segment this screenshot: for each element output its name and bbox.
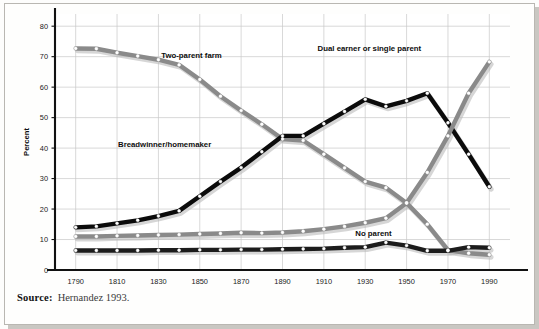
data-point-marker [447,134,450,137]
data-point-marker [405,99,408,102]
y-tick-label: 40 [40,144,48,153]
data-point-marker [322,122,325,125]
data-point-marker [178,63,181,66]
data-point-marker [281,134,284,137]
data-point-marker [240,231,243,234]
data-point-marker [198,78,201,81]
data-point-marker [178,249,181,252]
data-point-marker [136,55,139,58]
data-point-marker [364,221,367,224]
data-point-marker [343,166,346,169]
data-point-marker [322,228,325,231]
data-point-marker [281,248,284,251]
data-point-marker [219,248,222,251]
data-point-marker [343,246,346,249]
data-point-marker [178,209,181,212]
data-point-marker [343,110,346,113]
data-point-marker [426,171,429,174]
data-point-marker [74,235,77,238]
data-point-marker [302,248,305,251]
data-point-marker [447,249,450,252]
series-label-2: Breadwinner/homemaker [118,140,211,149]
data-point-marker [405,202,408,205]
data-point-marker [198,248,201,251]
data-point-marker [95,249,98,252]
data-point-marker [467,92,470,95]
x-tick-label: 1790 [67,277,83,286]
source-note: Source:Hernandez 1993. [17,292,129,303]
data-point-marker [467,246,470,249]
chart-svg: 01020304050607080 1790181018301850187018… [0,0,539,329]
data-point-marker [116,222,119,225]
data-point-marker [426,223,429,226]
data-point-marker [136,219,139,222]
x-tick-label: 1830 [150,277,166,286]
y-tick-label: 30 [40,174,48,183]
y-tick-label: 20 [40,205,48,214]
data-point-marker [95,225,98,228]
data-point-marker [240,166,243,169]
data-point-marker [116,51,119,54]
x-tick-label: 1890 [274,277,290,286]
data-point-marker [95,235,98,238]
data-point-marker [260,248,263,251]
y-axis-title-text: Percent [22,128,31,156]
data-point-marker [136,249,139,252]
data-point-marker [240,109,243,112]
line-chart: 01020304050607080 1790181018301850187018… [0,0,539,329]
source-label: Source: [17,292,53,303]
data-point-marker [260,232,263,235]
data-point-marker [364,246,367,249]
x-axis-tick-labels: 1790181018301850187018901910193019501970… [67,277,497,286]
data-point-marker [488,60,491,63]
y-tick-label: 10 [40,235,48,244]
data-point-marker [281,138,284,141]
y-tick-label: 60 [40,83,48,92]
y-tick-label: 0 [44,266,48,275]
y-tick-label: 70 [40,52,48,61]
x-tick-label: 1870 [233,277,249,286]
data-point-marker [219,232,222,235]
data-point-marker [74,47,77,50]
data-point-marker [384,241,387,244]
x-tick-label: 1990 [481,277,497,286]
y-axis-tick-labels: 01020304050607080 [40,22,55,275]
data-point-marker [260,123,263,126]
data-point-marker [260,150,263,153]
data-point-marker [136,234,139,237]
y-axis-title: Percent [22,128,31,156]
data-point-marker [198,233,201,236]
data-point-marker [488,185,491,188]
data-point-marker [116,249,119,252]
y-tick-label: 80 [40,22,48,31]
data-point-marker [467,153,470,156]
data-point-marker [219,180,222,183]
data-point-marker [322,247,325,250]
data-point-marker [488,246,491,249]
data-point-marker [157,249,160,252]
data-point-marker [426,249,429,252]
data-point-marker [74,249,77,252]
series-label-4: No parent [355,229,392,238]
x-tick-label: 1930 [357,277,373,286]
source-text: Hernandez 1993. [58,292,130,303]
data-point-marker [116,234,119,237]
data-point-marker [157,58,160,61]
data-point-marker [405,244,408,247]
data-point-marker [281,231,284,234]
data-point-marker [178,233,181,236]
data-point-marker [488,253,491,256]
data-point-marker [302,134,305,137]
data-point-marker [322,153,325,156]
data-point-marker [364,98,367,101]
series-label-1: Two-parent farm [161,51,222,60]
x-tick-label: 1970 [440,277,456,286]
data-point-marker [157,234,160,237]
y-tick-label: 50 [40,113,48,122]
data-point-marker [467,252,470,255]
data-point-marker [219,95,222,98]
x-tick-label: 1950 [398,277,414,286]
x-tick-label: 1810 [109,277,125,286]
series-label-3: Dual earner or single parent [318,44,422,53]
x-tick-label: 1910 [316,277,332,286]
